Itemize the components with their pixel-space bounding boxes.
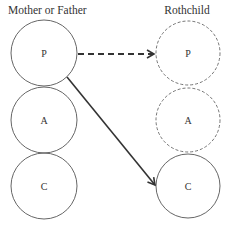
right-title: Rothchild: [164, 4, 210, 16]
svg-text:C: C: [185, 181, 192, 192]
svg-text:A: A: [184, 115, 192, 126]
solid-arrow-p-to-c: [67, 77, 155, 185]
left-title: Mother or Father: [8, 4, 87, 16]
svg-text:P: P: [185, 48, 191, 59]
right-node-c: C: [156, 154, 220, 218]
left-node-c: C: [11, 153, 77, 219]
right-node-a: A: [156, 88, 220, 152]
svg-text:P: P: [41, 48, 47, 59]
svg-text:C: C: [41, 181, 48, 192]
left-node-p: P: [11, 20, 77, 86]
svg-text:A: A: [40, 115, 48, 126]
parent-child-diagram: Mother or Father Rothchild P A C P A C: [0, 0, 229, 230]
left-node-a: A: [11, 87, 77, 153]
right-node-p: P: [156, 21, 220, 85]
